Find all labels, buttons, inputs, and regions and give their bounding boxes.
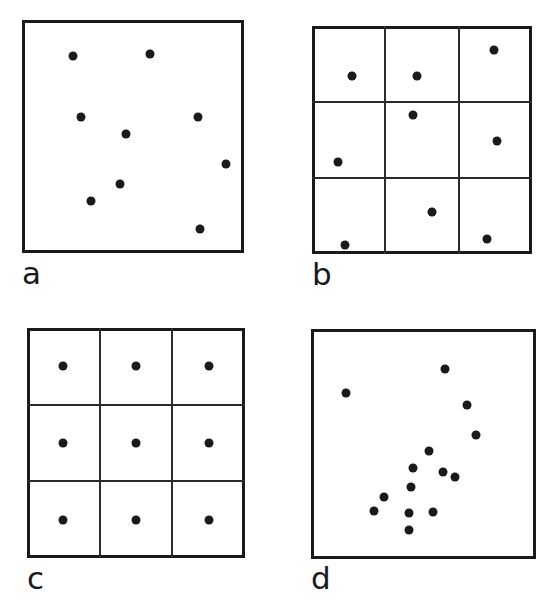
data-point — [438, 467, 447, 476]
data-point — [482, 235, 491, 244]
data-point — [59, 515, 68, 524]
data-point — [132, 515, 141, 524]
data-point — [204, 515, 213, 524]
data-point — [115, 180, 124, 189]
panel-b-grid-line-vertical — [384, 26, 386, 254]
data-point — [451, 473, 460, 482]
data-point — [370, 506, 379, 515]
data-point — [404, 509, 413, 518]
data-point — [132, 362, 141, 371]
data-point — [347, 72, 356, 81]
data-point — [492, 137, 501, 146]
panel-d — [311, 329, 536, 559]
panel-d-frame — [311, 329, 536, 559]
data-point — [86, 196, 95, 205]
panel-c-grid-line-vertical — [171, 328, 173, 558]
data-point — [195, 224, 204, 233]
panel-c-grid-line-horizontal — [27, 404, 245, 406]
data-point — [341, 389, 350, 398]
data-point — [69, 52, 78, 61]
panel-b — [312, 26, 532, 254]
data-point — [412, 72, 421, 81]
panel-c-label: c — [27, 563, 44, 594]
data-point — [428, 507, 437, 516]
data-point — [404, 526, 413, 535]
data-point — [407, 482, 416, 491]
panel-c-grid-line-vertical — [99, 328, 101, 558]
data-point — [132, 439, 141, 448]
data-point — [59, 439, 68, 448]
panel-c — [27, 328, 245, 558]
data-point — [427, 207, 436, 216]
data-point — [440, 365, 449, 374]
data-point — [59, 362, 68, 371]
data-point — [489, 45, 498, 54]
panel-a-label: a — [22, 258, 41, 289]
data-point — [122, 130, 131, 139]
data-point — [380, 492, 389, 501]
panel-c-grid-line-horizontal — [27, 480, 245, 482]
data-point — [222, 160, 231, 169]
panel-b-label: b — [312, 259, 332, 290]
data-point — [463, 400, 472, 409]
data-point — [472, 430, 481, 439]
data-point — [204, 362, 213, 371]
data-point — [76, 112, 85, 121]
data-point — [334, 157, 343, 166]
data-point — [409, 464, 418, 473]
panel-a-frame — [22, 20, 244, 253]
panel-d-label: d — [311, 563, 331, 594]
data-point — [204, 439, 213, 448]
panel-b-grid-line-horizontal — [312, 101, 532, 103]
data-point — [341, 240, 350, 249]
data-point — [425, 446, 434, 455]
panel-b-grid-line-horizontal — [312, 177, 532, 179]
data-point — [145, 49, 154, 58]
point-pattern-figure: abcd — [0, 0, 549, 614]
data-point — [409, 110, 418, 119]
panel-a — [22, 20, 244, 253]
panel-b-grid-line-vertical — [458, 26, 460, 254]
data-point — [194, 112, 203, 121]
